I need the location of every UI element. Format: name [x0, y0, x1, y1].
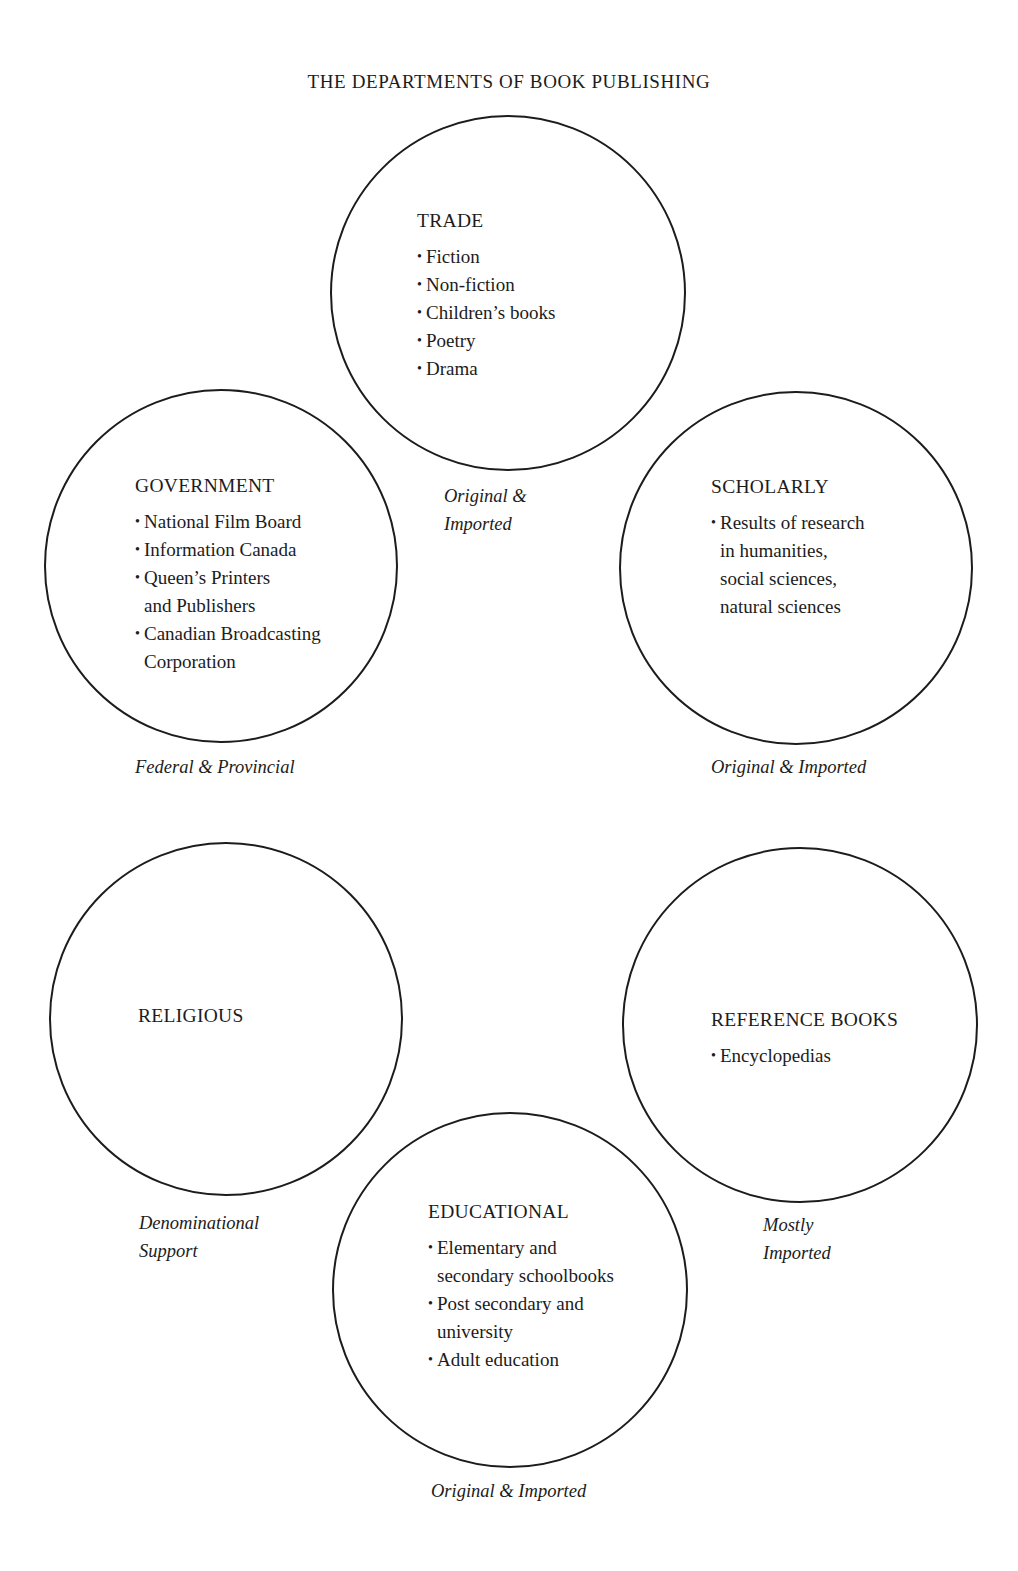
scholarly-item: •Results of researchin humanities,social… — [711, 509, 865, 621]
bullet-icon: • — [711, 1042, 716, 1070]
scholarly-block: SCHOLARLY •Results of researchin humanit… — [711, 473, 865, 621]
religious-heading: RELIGIOUS — [138, 1002, 244, 1030]
trade-item: •Drama — [417, 355, 555, 383]
bullet-icon: • — [417, 271, 422, 299]
reference-note: Mostly Imported — [763, 1211, 831, 1267]
bullet-icon: • — [417, 243, 422, 271]
scholarly-heading: SCHOLARLY — [711, 473, 865, 501]
bullet-icon: • — [417, 355, 422, 383]
scholarly-note: Original & Imported — [711, 753, 866, 781]
educational-item: •Elementary andsecondary schoolbooks — [428, 1234, 614, 1290]
government-heading: GOVERNMENT — [135, 472, 321, 500]
government-item: •Queen’s Printersand Publishers — [135, 564, 321, 620]
bullet-icon: • — [711, 509, 716, 537]
bullet-icon: • — [135, 536, 140, 564]
trade-heading: TRADE — [417, 207, 555, 235]
bullet-icon: • — [417, 299, 422, 327]
trade-block: TRADE •Fiction •Non-fiction •Children’s … — [417, 207, 555, 383]
educational-item: •Post secondary anduniversity — [428, 1290, 614, 1346]
reference-item: •Encyclopedias — [711, 1042, 898, 1070]
bullet-icon: • — [135, 564, 140, 592]
page-title: THE DEPARTMENTS OF BOOK PUBLISHING — [0, 71, 1018, 93]
government-item: •Canadian BroadcastingCorporation — [135, 620, 321, 676]
educational-note: Original & Imported — [431, 1477, 586, 1505]
government-note: Federal & Provincial — [135, 753, 295, 781]
trade-item: •Children’s books — [417, 299, 555, 327]
government-item: •National Film Board — [135, 508, 321, 536]
educational-block: EDUCATIONAL •Elementary andsecondary sch… — [428, 1198, 614, 1374]
educational-item: •Adult education — [428, 1346, 614, 1374]
bullet-icon: • — [428, 1346, 433, 1374]
trade-item: •Non-fiction — [417, 271, 555, 299]
bullet-icon: • — [428, 1234, 433, 1262]
government-block: GOVERNMENT •National Film Board •Informa… — [135, 472, 321, 676]
bullet-icon: • — [135, 508, 140, 536]
religious-note: Denominational Support — [139, 1209, 259, 1265]
trade-item: •Poetry — [417, 327, 555, 355]
government-item: •Information Canada — [135, 536, 321, 564]
trade-item: •Fiction — [417, 243, 555, 271]
educational-heading: EDUCATIONAL — [428, 1198, 614, 1226]
religious-block: RELIGIOUS — [138, 1002, 244, 1038]
reference-block: REFERENCE BOOKS •Encyclopedias — [711, 1006, 898, 1070]
bullet-icon: • — [135, 620, 140, 648]
reference-heading: REFERENCE BOOKS — [711, 1006, 898, 1034]
trade-note: Original & Imported — [444, 482, 527, 538]
bullet-icon: • — [428, 1290, 433, 1318]
bullet-icon: • — [417, 327, 422, 355]
